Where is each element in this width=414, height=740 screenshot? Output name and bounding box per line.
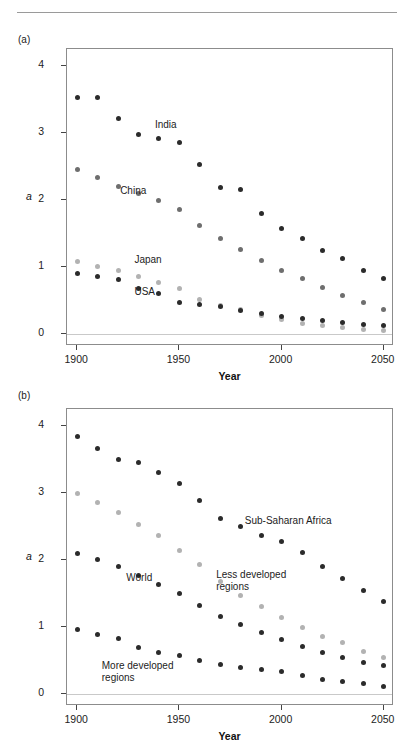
- data-point: [279, 669, 284, 674]
- data-point: [300, 625, 305, 630]
- data-point: [156, 280, 161, 285]
- data-point: [320, 248, 325, 253]
- series-label-india: India: [155, 119, 177, 131]
- data-point: [320, 285, 325, 290]
- data-point: [197, 603, 202, 608]
- data-point: [116, 636, 121, 641]
- panel-b-y-tick-label: 1: [20, 619, 44, 631]
- data-point: [218, 304, 223, 309]
- data-point: [218, 516, 223, 521]
- data-point: [340, 655, 345, 660]
- data-point: [197, 302, 202, 307]
- panel-b-y-axis-title: a: [26, 550, 32, 562]
- panel-b-tag: (b): [18, 390, 30, 401]
- data-point: [279, 317, 284, 322]
- data-point: [156, 470, 161, 475]
- series-label-sub-saharan-africa: Sub-Saharan Africa: [245, 515, 332, 527]
- data-point: [177, 286, 182, 291]
- header-rule: [17, 12, 397, 13]
- data-point: [279, 226, 284, 231]
- data-point: [95, 264, 100, 269]
- panel-b-y-tick: [61, 693, 66, 694]
- data-point: [116, 564, 121, 569]
- panel-a-x-tick-label: 2050: [363, 353, 403, 365]
- panel-b-x-tick: [76, 705, 77, 710]
- panel-b-x-tick-label: 2000: [261, 713, 301, 725]
- data-point: [238, 524, 243, 529]
- series-label-more-developed-regions: More developed regions: [102, 660, 174, 684]
- panel-b-y-tick: [61, 559, 66, 560]
- data-point: [218, 303, 223, 308]
- series-label-world: World: [126, 572, 152, 584]
- data-point: [95, 95, 100, 100]
- data-point: [238, 247, 243, 252]
- data-point: [218, 579, 223, 584]
- data-point: [177, 481, 182, 486]
- data-point: [300, 321, 305, 326]
- data-point: [136, 274, 141, 279]
- data-point: [300, 316, 305, 321]
- data-point: [116, 116, 121, 121]
- data-point: [340, 576, 345, 581]
- data-point: [197, 223, 202, 228]
- data-point: [75, 627, 80, 632]
- data-point: [259, 604, 264, 609]
- data-point: [340, 679, 345, 684]
- data-point: [279, 637, 284, 642]
- data-point: [320, 564, 325, 569]
- panel-b-y-tick: [61, 425, 66, 426]
- data-point: [238, 593, 243, 598]
- panel-a: (a)IndiaChinaJapanUSA0123419001950200020…: [0, 0, 414, 740]
- data-point: [116, 184, 121, 189]
- data-point: [381, 328, 386, 333]
- data-point: [95, 632, 100, 637]
- panel-a-y-tick: [61, 132, 66, 133]
- data-point: [218, 185, 223, 190]
- data-point: [300, 276, 305, 281]
- data-point: [381, 323, 386, 328]
- data-point: [136, 573, 141, 578]
- data-point: [320, 634, 325, 639]
- panel-a-zero-line: [67, 334, 392, 335]
- data-point: [136, 522, 141, 527]
- data-point: [156, 650, 161, 655]
- data-point: [95, 500, 100, 505]
- data-point: [218, 614, 223, 619]
- data-point: [238, 622, 243, 627]
- data-point: [361, 681, 366, 686]
- panel-a-y-tick: [61, 65, 66, 66]
- data-point: [279, 615, 284, 620]
- data-point: [340, 256, 345, 261]
- data-point: [136, 460, 141, 465]
- data-point: [340, 293, 345, 298]
- data-point: [300, 236, 305, 241]
- data-point: [197, 297, 202, 302]
- panel-a-x-tick-label: 1900: [56, 353, 96, 365]
- data-point: [381, 599, 386, 604]
- data-point: [156, 136, 161, 141]
- series-label-china: China: [120, 185, 146, 197]
- data-point: [136, 191, 141, 196]
- panel-b-x-tick-label: 1950: [158, 713, 198, 725]
- data-point: [259, 667, 264, 672]
- data-point: [177, 140, 182, 145]
- data-point: [75, 95, 80, 100]
- data-point: [279, 539, 284, 544]
- panel-b-x-tick: [178, 705, 179, 710]
- data-point: [361, 327, 366, 332]
- data-point: [340, 325, 345, 330]
- data-point: [381, 307, 386, 312]
- data-point: [75, 259, 80, 264]
- data-point: [279, 314, 284, 319]
- data-point: [381, 663, 386, 668]
- panel-a-y-tick-label: 2: [20, 192, 44, 204]
- data-point: [279, 268, 284, 273]
- panel-a-tag: (a): [18, 34, 30, 45]
- data-point: [320, 650, 325, 655]
- data-point: [95, 175, 100, 180]
- panel-b-x-tick-label: 1900: [56, 713, 96, 725]
- data-point: [75, 551, 80, 556]
- panel-b-y-tick-label: 2: [20, 552, 44, 564]
- panel-a-y-tick-label: 0: [20, 326, 44, 338]
- panel-b-plot-area: Sub-Saharan AfricaLess developed regions…: [66, 408, 393, 705]
